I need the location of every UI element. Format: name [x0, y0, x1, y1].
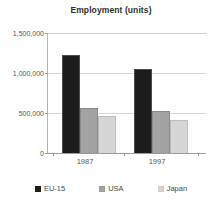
bar-eu15-1997[interactable]: [134, 69, 152, 153]
legend-swatch-icon-japan: [158, 186, 164, 192]
y-tick-mark-0: [45, 153, 48, 154]
bar-group-1987: [62, 33, 116, 153]
y-tick-label-1500000: 1,500,000: [13, 30, 44, 37]
chart-legend: EU-15 USA Japan: [0, 184, 222, 193]
y-tick-mark-1000000: [45, 73, 48, 74]
x-tick-label-1997: 1997: [130, 157, 184, 166]
legend-label-eu15: EU-15: [44, 184, 65, 193]
x-tick-label-1987: 1987: [58, 157, 112, 166]
bar-japan-1987[interactable]: [98, 116, 116, 153]
chart-title: Employment (units): [0, 5, 222, 15]
legend-label-japan: Japan: [167, 184, 187, 193]
bar-usa-1987[interactable]: [80, 108, 98, 153]
gridline-0: 0: [48, 153, 206, 154]
legend-swatch-icon-usa: [99, 186, 105, 192]
x-tick-mark-left: [53, 153, 54, 156]
legend-label-usa: USA: [108, 184, 123, 193]
legend-item-usa[interactable]: USA: [99, 184, 123, 193]
x-tick-mark-middle: [124, 153, 125, 156]
legend-item-japan[interactable]: Japan: [158, 184, 187, 193]
x-tick-mark-right: [198, 153, 199, 156]
bar-usa-1997[interactable]: [152, 111, 170, 153]
bar-japan-1997[interactable]: [170, 120, 188, 153]
y-tick-label-0: 0: [40, 150, 44, 157]
legend-item-eu15[interactable]: EU-15: [35, 184, 65, 193]
bar-eu15-1987[interactable]: [62, 55, 80, 153]
legend-swatch-icon-eu15: [35, 186, 41, 192]
y-tick-mark-1500000: [45, 33, 48, 34]
y-tick-mark-500000: [45, 113, 48, 114]
y-tick-label-1000000: 1,000,000: [13, 70, 44, 77]
bar-group-1997: [134, 33, 188, 153]
plot-area: 1,500,000 1,000,000 500,000 0: [47, 33, 206, 154]
employment-bar-chart: Employment (units) 1,500,000 1,000,000 5…: [0, 0, 222, 208]
y-tick-label-500000: 500,000: [19, 110, 44, 117]
